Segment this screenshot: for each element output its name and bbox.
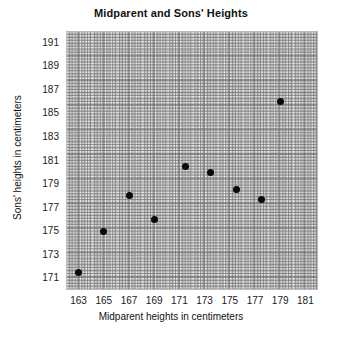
y-tick-label: 183	[19, 132, 59, 142]
y-tick-label: 189	[19, 61, 59, 71]
scatter-chart-figure: Midparent and Sons' Heights 171173175177…	[0, 0, 342, 344]
chart-title: Midparent and Sons' Heights	[0, 7, 342, 19]
y-axis-title: Sons' heights in centimeters	[12, 38, 23, 278]
y-tick-label: 171	[19, 273, 59, 283]
data-point	[100, 228, 107, 235]
y-tick-label: 191	[19, 38, 59, 48]
y-tick-label: 173	[19, 250, 59, 260]
data-point	[151, 216, 158, 223]
y-tick-label: 187	[19, 85, 59, 95]
data-point	[182, 163, 189, 170]
x-axis-line	[66, 289, 318, 290]
data-point	[277, 98, 284, 105]
plot-area	[66, 31, 318, 290]
data-point	[258, 196, 265, 203]
grid-major	[66, 31, 318, 290]
x-tick-label: 181	[285, 296, 325, 306]
y-tick-label: 179	[19, 179, 59, 189]
x-axis-title: Midparent heights in centimeters	[0, 311, 342, 322]
y-tick-label: 181	[19, 156, 59, 166]
data-point	[126, 192, 133, 199]
y-tick-label: 185	[19, 108, 59, 118]
y-axis-line	[66, 31, 67, 290]
y-tick-label: 177	[19, 203, 59, 213]
y-tick-label: 175	[19, 226, 59, 236]
data-point	[75, 269, 82, 276]
